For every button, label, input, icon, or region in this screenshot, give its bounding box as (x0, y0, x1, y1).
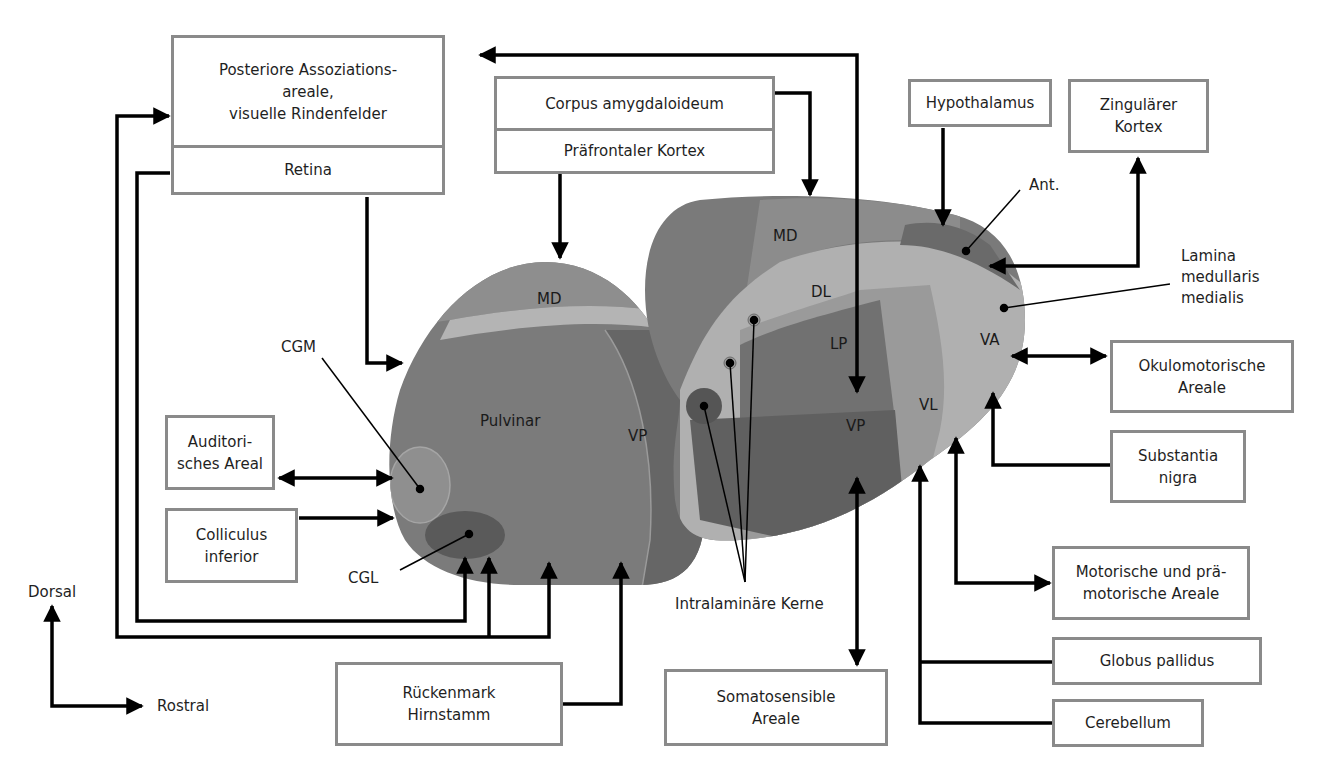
nucleus-md-right: MD (773, 227, 798, 245)
amygdala-prefrontal-box: Corpus amygdaloideum Präfrontaler Kortex (494, 76, 775, 174)
spinal-cord-brainstem-box: Rückenmark Hirnstamm (335, 662, 563, 746)
nucleus-vl: VL (919, 396, 938, 414)
nucleus-dl: DL (811, 283, 831, 301)
thalamus-connections-diagram: Posteriore Assoziations- areale, visuell… (0, 0, 1325, 767)
anterior-label: Ant. (1029, 175, 1059, 196)
somatosensory-areas-box: Somatosensible Areale (664, 669, 888, 746)
amygdala-label: Corpus amygdaloideum (497, 79, 772, 131)
nucleus-vp-left: VP (628, 427, 647, 445)
nucleus-pulvinar: Pulvinar (480, 412, 540, 430)
posterior-association-label: Posteriore Assoziations- areale, visuell… (174, 38, 442, 148)
colliculus-inferior-box: Colliculus inferior (165, 508, 298, 583)
posterior-association-retina-box: Posteriore Assoziations- areale, visuell… (171, 35, 445, 195)
cerebellum-box: Cerebellum (1052, 699, 1204, 747)
oculomotor-areas-box: Okulomotorische Areale (1110, 340, 1294, 413)
motor-premotor-areas-box: Motorische und prä- motorische Areale (1052, 546, 1250, 620)
nucleus-lp: LP (830, 335, 847, 353)
auditory-area-box: Auditori- sches Areal (165, 415, 275, 490)
intralaminar-nuclei-label: Intralaminäre Kerne (675, 594, 824, 615)
rostral-label: Rostral (157, 696, 209, 717)
dorsal-label: Dorsal (28, 582, 76, 603)
nucleus-vp-right: VP (846, 417, 865, 435)
retina-label: Retina (174, 148, 442, 192)
prefrontal-label: Präfrontaler Kortex (497, 131, 772, 171)
cingulate-cortex-box: Zingulärer Kortex (1068, 79, 1209, 153)
right-thalamus (640, 190, 1040, 560)
cgm-label: CGM (281, 337, 316, 358)
substantia-nigra-box: Substantia nigra (1110, 430, 1246, 503)
hypothalamus-box: Hypothalamus (908, 79, 1052, 127)
nucleus-va: VA (980, 331, 1000, 349)
globus-pallidus-box: Globus pallidus (1052, 637, 1262, 685)
lamina-medullaris-label: Lamina medullaris medialis (1181, 246, 1260, 309)
nucleus-md-left: MD (537, 290, 562, 308)
cgl-label: CGL (348, 568, 378, 589)
